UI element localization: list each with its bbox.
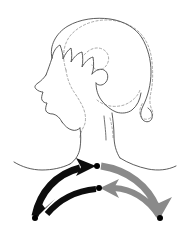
- shoulder-right-path: [120, 158, 176, 170]
- hair-back-contour-path: [96, 83, 141, 113]
- jawline-path: [62, 122, 80, 130]
- head-rotated-neck-path: [110, 118, 113, 138]
- pivot-dot-upper: [94, 163, 100, 169]
- head-hair-right-path: [141, 38, 153, 122]
- shoulder-left-path: [14, 162, 70, 170]
- head-rotated-face-path: [66, 70, 86, 138]
- head-rotated-outline: [64, 20, 153, 138]
- left-rotation-arrows: [35, 158, 96, 218]
- head-hairline-crown-path: [51, 18, 142, 58]
- head-rotated-ear-path: [84, 48, 109, 70]
- anatomy-rotation-figure: Cervical rotation range of motion diagra…: [0, 0, 185, 235]
- pivot-dot-lower: [96, 185, 102, 191]
- figure-canvas: Cervical rotation range of motion diagra…: [0, 0, 185, 235]
- head-neutral-outline: [14, 18, 176, 170]
- forehead-path: [46, 58, 52, 75]
- neck-center-path: [104, 116, 106, 140]
- right-rotation-arrows: [100, 166, 172, 218]
- pivot-dot-left: [32, 215, 38, 221]
- neck-left-path: [70, 128, 81, 164]
- arrow-left-return-shaft: [47, 189, 96, 214]
- hair-inner-contour-path: [92, 69, 108, 85]
- hair-fringe-path: [52, 45, 94, 74]
- face-profile-path: [35, 75, 62, 122]
- pivot-dot-right: [157, 215, 163, 221]
- head-rotated-jaw-path: [97, 90, 140, 106]
